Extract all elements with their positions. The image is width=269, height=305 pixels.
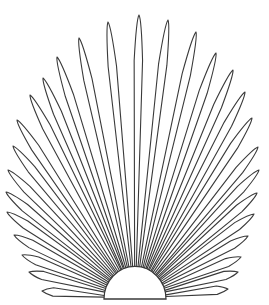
palm-fan-illustration	[0, 0, 269, 305]
leaflet	[146, 70, 233, 271]
leaflet	[107, 22, 133, 268]
leaflets-group	[6, 15, 259, 297]
leaflet	[156, 170, 259, 277]
leaflet	[7, 212, 110, 282]
leaflet	[43, 78, 124, 271]
fan-leaf-drawing	[0, 0, 269, 305]
leaflet	[42, 288, 104, 297]
leaflet	[149, 92, 245, 272]
leaflet	[57, 57, 126, 270]
